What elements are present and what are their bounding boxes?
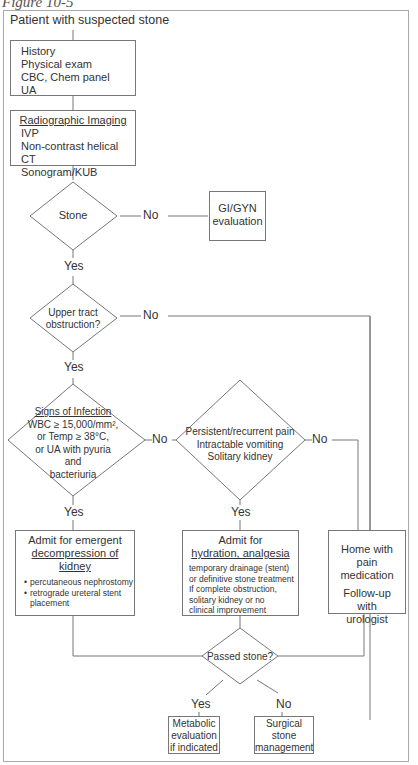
home-line: pain medication bbox=[329, 556, 405, 582]
infection-decision-label: Signs of Infection WBC ≥ 15,000/mm², or … bbox=[23, 406, 123, 481]
obstruction-decision-label: Upper tract obstruction? bbox=[33, 307, 113, 331]
imaging-box: Radiographic Imaging IVP Non-contrast he… bbox=[10, 110, 136, 166]
stone-decision-label: Stone bbox=[43, 209, 103, 222]
gi-gyn-box: GI/GYN evaluation bbox=[209, 191, 266, 241]
hydration-line: If complete obstruction, bbox=[189, 584, 298, 595]
emergent-bullet: percutaneous nephrostomy bbox=[24, 577, 134, 588]
pain-line: Solitary kidney bbox=[180, 451, 300, 464]
infection-line: WBC ≥ 15,000/mm², bbox=[23, 419, 123, 432]
obstruction-no-label: No bbox=[141, 308, 160, 322]
followup-line: urologist bbox=[329, 613, 405, 626]
hydration-title: hydration, analgesia bbox=[183, 547, 298, 560]
pain-decision-label: Persistent/recurrent pain Intractable vo… bbox=[180, 426, 300, 464]
surgical-line: stone bbox=[255, 730, 313, 742]
followup-line: with bbox=[329, 600, 405, 613]
surgical-box: Surgical stone management bbox=[254, 716, 314, 754]
gi-gyn-line: evaluation bbox=[210, 215, 265, 228]
obstruction-yes-label: Yes bbox=[62, 360, 86, 374]
passed-yes-label: Yes bbox=[189, 697, 213, 711]
start-label: Patient with suspected stone bbox=[10, 14, 169, 27]
surgical-line: management bbox=[255, 742, 313, 754]
hydration-line: temporary drainage (stent) bbox=[189, 563, 298, 574]
emergent-title: Admit for emergent bbox=[16, 534, 134, 547]
admit-hydration-box: Admit for hydration, analgesia temporary… bbox=[182, 530, 299, 616]
surgical-line: Surgical bbox=[255, 718, 313, 730]
imaging-line: Sonogram/KUB bbox=[21, 166, 135, 179]
infection-line: or Temp ≥ 38°C, bbox=[23, 431, 123, 444]
home-box: Home with pain medication Follow-up with… bbox=[328, 530, 406, 614]
infection-yes-label: Yes bbox=[62, 505, 86, 519]
workup-line: UA bbox=[21, 84, 135, 97]
metabolic-line: if indicated bbox=[169, 742, 219, 754]
imaging-title: Radiographic Imaging bbox=[11, 114, 135, 127]
home-line: Home with bbox=[329, 543, 405, 556]
hydration-line: or definitive stone treatment bbox=[189, 574, 298, 585]
infection-no-label: No bbox=[152, 432, 167, 446]
emergent-title: decompression of kidney bbox=[16, 547, 134, 573]
infection-line: and bbox=[23, 456, 123, 469]
workup-line: CBC, Chem panel bbox=[21, 71, 135, 84]
gi-gyn-line: GI/GYN bbox=[210, 202, 265, 215]
infection-title: Signs of Infection bbox=[23, 406, 123, 419]
obstruction-line: Upper tract bbox=[33, 307, 113, 319]
obstruction-line: obstruction? bbox=[33, 319, 113, 331]
stone-yes-label: Yes bbox=[62, 259, 86, 273]
passed-stone-label: Passed stone? bbox=[205, 650, 275, 663]
workup-line: History bbox=[21, 45, 135, 58]
pain-yes-label: Yes bbox=[229, 505, 253, 519]
imaging-line: Non-contrast helical CT bbox=[21, 140, 135, 166]
pain-line: Persistent/recurrent pain bbox=[180, 426, 300, 439]
pain-line: Intractable vomiting bbox=[180, 439, 300, 452]
emergent-bullet: retrograde ureteral stent placement bbox=[24, 588, 130, 609]
pain-no-label: No bbox=[312, 432, 327, 446]
hydration-title: Admit for bbox=[183, 534, 298, 547]
passed-no-label: No bbox=[274, 697, 293, 711]
metabolic-line: evaluation bbox=[169, 730, 219, 742]
hydration-line: solitary kidney or no bbox=[189, 595, 298, 606]
initial-workup-box: History Physical exam CBC, Chem panel UA bbox=[10, 40, 136, 96]
stone-no-label: No bbox=[141, 208, 160, 222]
infection-line: or UA with pyuria bbox=[23, 444, 123, 457]
hydration-line: clinical improvement bbox=[189, 605, 298, 616]
infection-line: bacteriuria bbox=[23, 469, 123, 482]
followup-line: Follow-up bbox=[329, 587, 405, 600]
admit-emergent-box: Admit for emergent decompression of kidn… bbox=[15, 530, 135, 616]
imaging-line: IVP bbox=[21, 127, 135, 140]
workup-line: Physical exam bbox=[21, 58, 135, 71]
metabolic-line: Metabolic bbox=[169, 718, 219, 730]
metabolic-box: Metabolic evaluation if indicated bbox=[168, 716, 220, 754]
